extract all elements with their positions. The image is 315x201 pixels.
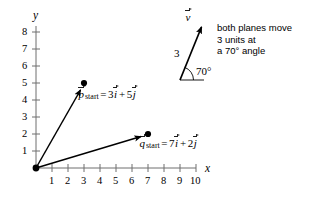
vector-q-equation: qstart=7i+2j (139, 138, 197, 150)
y-axis-label: y (33, 10, 38, 22)
x-tick-label-10: 10 (190, 176, 201, 187)
vector-q-subscript: start (146, 141, 160, 150)
velocity-vector-label: v (185, 12, 191, 23)
vector-p-equation: pstart=3i+5j (78, 89, 136, 101)
y-tick-label-3: 3 (22, 112, 27, 123)
annotation-text: both planes move 3 units at a 70° angle (217, 22, 292, 57)
x-tick-label-6: 6 (129, 176, 134, 187)
x-tick-label-1: 1 (49, 176, 54, 187)
origin-dot (33, 165, 40, 172)
x-tick-label-9: 9 (177, 176, 182, 187)
annotation-line-2: 3 units at (217, 34, 292, 46)
x-tick-label-7: 7 (145, 176, 150, 187)
vector-p-i-unit: i (114, 89, 118, 100)
y-tick-label-6: 6 (22, 61, 27, 72)
x-tick-label-5: 5 (113, 176, 118, 187)
y-tick-label-4: 4 (22, 95, 27, 106)
inset-angle-arc (185, 67, 194, 80)
figure-canvas: 1 2 3 4 5 6 7 8 1 2 3 4 5 6 7 8 9 10 y x… (0, 0, 315, 201)
annotation-line-1: both planes move (217, 22, 292, 34)
vector-q-j-unit: j (193, 138, 197, 149)
y-tick-label-7: 7 (22, 44, 27, 55)
x-tick-label-8: 8 (161, 176, 166, 187)
vector-q-operator: + (179, 137, 188, 149)
y-tick-label-5: 5 (22, 78, 27, 89)
vector-p-operator: + (118, 88, 127, 100)
velocity-angle-label: 70° (196, 66, 211, 77)
x-axis-label: x (205, 163, 210, 175)
vector-p-j-unit: j (132, 89, 136, 100)
x-tick-label-3: 3 (81, 176, 86, 187)
x-tick-label-2: 2 (65, 176, 70, 187)
vector-q-i-unit: i (175, 138, 179, 149)
vector-p-symbol: p (78, 89, 85, 100)
y-tick-label-1: 1 (22, 146, 27, 157)
annotation-line-3: a 70° angle (217, 45, 292, 57)
x-tick-label-4: 4 (97, 176, 102, 187)
velocity-magnitude-label: 3 (174, 48, 180, 59)
vector-p-subscript: start (85, 92, 99, 101)
vector-q-equals: = (160, 137, 169, 149)
y-tick-label-8: 8 (22, 27, 27, 38)
vector-q-symbol: q (139, 138, 146, 149)
y-tick-label-2: 2 (22, 129, 27, 140)
vector-p-equals: = (99, 88, 108, 100)
